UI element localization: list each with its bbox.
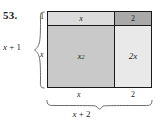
width-segment-label-x: x bbox=[77, 91, 81, 99]
bottom-total-constant: 2 bbox=[86, 109, 91, 119]
tile-two-x-label: 2x bbox=[129, 52, 138, 61]
tile-2-top: 2 bbox=[115, 12, 151, 26]
left-total-operator: + bbox=[7, 42, 17, 52]
tile-x-top-label: x bbox=[79, 15, 83, 23]
height-segment-label-x: x bbox=[40, 51, 44, 59]
area-model-rectangle: x 2 x2 2x bbox=[47, 11, 152, 88]
tile-two-x: 2x bbox=[115, 26, 151, 87]
left-total-constant: 1 bbox=[17, 42, 22, 52]
bottom-total-label: x + 2 bbox=[0, 110, 163, 119]
width-segment-label-2: 2 bbox=[131, 91, 135, 99]
algebra-tile-figure: 53. x + 1 1 x x 2 x2 2x x 2 x + 2 bbox=[0, 0, 163, 124]
exercise-number: 53. bbox=[3, 10, 17, 21]
tile-x-top: x bbox=[48, 12, 115, 26]
tile-x-squared: x2 bbox=[48, 26, 115, 87]
bottom-brace-icon bbox=[46, 99, 153, 110]
left-total-label: x + 1 bbox=[3, 43, 21, 52]
tile-2-top-label: 2 bbox=[131, 15, 135, 23]
height-segment-label-1: 1 bbox=[40, 13, 44, 21]
bottom-total-operator: + bbox=[76, 109, 86, 119]
